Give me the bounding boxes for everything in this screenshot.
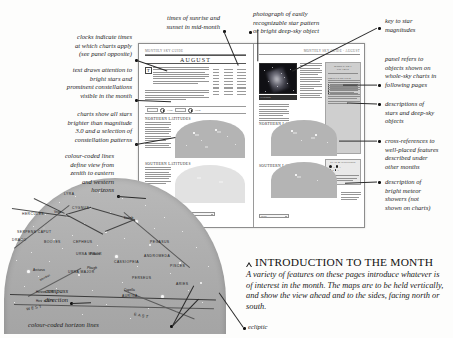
table-row bbox=[213, 84, 246, 86]
callout-key-to-star: key to star magnitudes bbox=[385, 17, 451, 34]
star-chart-dome-south-right[interactable]: ····· bbox=[271, 162, 337, 198]
callout-dot bbox=[378, 181, 381, 184]
star-label-deneb: Deneb bbox=[124, 216, 133, 220]
table-row bbox=[213, 69, 246, 71]
left-page-body-text bbox=[153, 67, 209, 85]
constellation-label: SERPENS CAPUT bbox=[17, 230, 52, 234]
constellation-label: ANDROMEDA bbox=[144, 254, 170, 258]
deep-sky-photograph[interactable] bbox=[259, 63, 297, 94]
star-chart-dome-north-right[interactable]: ····· ····· bbox=[271, 120, 337, 156]
leader-line bbox=[339, 141, 377, 142]
clock-strip-left[interactable]: 11pm 10pm bbox=[145, 106, 246, 114]
callout-dot bbox=[378, 103, 381, 106]
magnified-star-chart[interactable]: CYGNUS DRACO CEPHEUS HERCULES LYRA SERPE… bbox=[4, 178, 226, 334]
object-descriptions-column bbox=[300, 63, 322, 100]
cross-reference-column bbox=[259, 104, 289, 122]
leader-line bbox=[258, 29, 259, 61]
star-label-capella: Capella bbox=[124, 288, 135, 292]
callout-text-draws: text draws attention to bright stars and… bbox=[10, 66, 132, 100]
callout-sunrise: times of sunrise and sunset in mid-month bbox=[110, 14, 220, 31]
clock-field[interactable] bbox=[147, 108, 158, 111]
constellation-label: DRACO bbox=[12, 238, 27, 242]
constellation-label: URSA MAJOR bbox=[68, 270, 95, 274]
col-sunrise: ·· bbox=[228, 66, 230, 68]
table-row bbox=[213, 81, 246, 83]
constellation-label: HERCULES bbox=[22, 212, 44, 216]
callout-photograph: photograph of easily recognizable star p… bbox=[253, 10, 365, 36]
magnitude-key-title: STAR MAGNITUDES bbox=[326, 160, 360, 164]
intro-title-text: INTRODUCTION TO THE MONTH bbox=[255, 256, 433, 268]
month-title: August bbox=[180, 57, 211, 63]
introduction-section: INTRODUCTION TO THE MONTH A variety of f… bbox=[246, 256, 446, 312]
star-label-polaris: Polaris bbox=[90, 252, 100, 256]
callout-dot bbox=[243, 327, 246, 330]
constellation-label: BOOTES bbox=[44, 240, 61, 244]
callout-ecliptic: ecliptic bbox=[248, 323, 288, 332]
callout-charts-show: charts show all stars brighter than magn… bbox=[14, 110, 132, 144]
constellation-label: PEGASUS bbox=[150, 240, 170, 244]
sunrise-sunset-table: · ·· ·· bbox=[213, 66, 246, 97]
callout-cross-refs: cross-references to well-placed features… bbox=[385, 137, 453, 171]
callout-meteor: description of bright meteor showers (no… bbox=[385, 178, 451, 212]
asterism-label-plough: Plough bbox=[87, 266, 97, 270]
clock-field[interactable] bbox=[175, 108, 186, 111]
callout-horizon-lines: colour-coded horizon lines bbox=[28, 321, 168, 330]
magnitude-label: 3 bbox=[337, 169, 338, 171]
table-row bbox=[213, 72, 246, 74]
constellation-label: AURIGA bbox=[122, 294, 138, 298]
constellation-label: PERSEUS bbox=[132, 276, 151, 280]
month-selector-right[interactable]: Month bbox=[259, 214, 289, 218]
col-date: · bbox=[213, 66, 214, 68]
clock-label: 10pm bbox=[195, 109, 201, 112]
callout-clocks: clocks indicate times at which charts ap… bbox=[14, 33, 132, 59]
runhead-rule bbox=[259, 54, 360, 55]
col-sunset: ·· bbox=[244, 66, 246, 68]
star-label-arcturus: Arcturus bbox=[33, 268, 45, 272]
runhead-rule bbox=[145, 54, 246, 55]
table-row bbox=[213, 87, 246, 89]
table-row bbox=[213, 91, 246, 93]
clock-icon bbox=[160, 108, 165, 113]
month-title-box: August bbox=[145, 55, 246, 64]
table-row bbox=[213, 75, 246, 77]
magnitude-label: 0 bbox=[333, 166, 334, 168]
callout-dot bbox=[378, 140, 381, 143]
northern-text bbox=[145, 122, 171, 149]
constellation-label: CASSIOPEIA bbox=[114, 260, 139, 264]
photo-caption: CYGNUS bbox=[259, 95, 297, 98]
callout-colour-lines: colour-coded lines define view from zeni… bbox=[16, 152, 114, 195]
nebula-glow bbox=[266, 67, 290, 93]
star-chart-dome-north[interactable]: ····· ····· ···· bbox=[175, 120, 245, 158]
section-northern-latitudes: NORTHERN LATITUDES bbox=[145, 117, 191, 121]
callout-dot bbox=[378, 27, 381, 30]
star-label-vega: Vega bbox=[54, 210, 61, 214]
intro-title: INTRODUCTION TO THE MONTH bbox=[246, 256, 446, 268]
meteor-shower-note bbox=[341, 192, 361, 201]
constellation-label: ARIES bbox=[176, 282, 188, 286]
table-row bbox=[213, 78, 246, 80]
callout-descriptions: descriptions of stars and deep-sky objec… bbox=[385, 100, 453, 126]
table-row bbox=[213, 94, 246, 96]
panel-title: WHOLE-SKY CHARTS bbox=[326, 63, 360, 72]
left-page-runhead: MONTHLY SKY GUIDE bbox=[145, 49, 183, 53]
clock-icon bbox=[188, 108, 193, 113]
drop-cap: T bbox=[145, 67, 152, 74]
constellation-label: CYGNUS bbox=[72, 206, 89, 210]
right-page: MONTHLY SKY GUIDE · AUGUST CYGNUS bbox=[253, 44, 365, 228]
callout-dot bbox=[249, 31, 252, 34]
photo-caption-bar: CYGNUS bbox=[259, 95, 297, 100]
selector-label: Month bbox=[261, 215, 267, 217]
panel-divider bbox=[328, 73, 358, 74]
sunrise-table-headers: · ·· ·· bbox=[213, 66, 246, 68]
page-root: MONTHLY SKY GUIDE August T · ·· ·· bbox=[0, 0, 453, 338]
callout-panel-refers: panel refers to objects shown on whole-s… bbox=[385, 55, 453, 89]
magnitude-label: 1 bbox=[339, 166, 340, 168]
clock-label: 11pm bbox=[167, 109, 173, 112]
triangle-bullet-icon bbox=[246, 262, 252, 267]
star-field bbox=[4, 178, 226, 334]
constellation-label: PISCES bbox=[170, 264, 185, 268]
leader-line bbox=[343, 85, 377, 86]
constellation-label: CEPHEUS bbox=[73, 240, 93, 244]
intro-body: A variety of features on these pages int… bbox=[246, 270, 446, 312]
callout-compass: compass direction bbox=[6, 287, 68, 304]
